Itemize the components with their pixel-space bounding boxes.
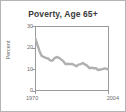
y-axis-title: Percent xyxy=(5,30,11,70)
data-line-series xyxy=(35,26,109,91)
chart-figure: Poverty, Age 65+ Percent 30 20 10 0 1970… xyxy=(0,0,126,112)
x-tick-label-2004: 2004 xyxy=(107,95,119,101)
chart-title: Poverty, Age 65+ xyxy=(1,9,125,19)
x-tick-label-1970: 1970 xyxy=(26,95,38,101)
x-tick-mark-2004 xyxy=(108,91,109,94)
x-tick-mark-1970 xyxy=(35,91,36,94)
